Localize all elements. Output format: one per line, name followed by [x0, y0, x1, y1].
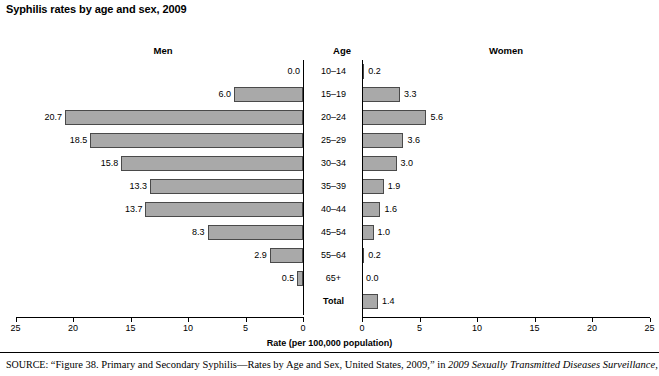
bar-men: [270, 248, 303, 263]
bar-value-men: 0.5: [234, 271, 294, 286]
axis-tick: [362, 318, 363, 322]
age-group-label: 55–64: [306, 248, 361, 263]
axis-tick: [16, 318, 17, 322]
bar-women: [362, 202, 380, 217]
chart-plot-area: 0.010–140.26.015–193.320.720–245.618.525…: [0, 60, 659, 318]
source-publication-title: 2009 Sexually Transmitted Diseases Surve…: [448, 359, 655, 370]
bar-value-men: 8.3: [145, 225, 205, 240]
bar-value-women: 3.3: [404, 87, 464, 102]
axis-tick-label: 5: [231, 323, 261, 333]
bar-men: [150, 179, 303, 194]
age-group-label: 40–44: [306, 202, 361, 217]
axis-tick: [477, 318, 478, 322]
chart-row: 2.955–640.2: [0, 244, 659, 267]
age-group-label: 45–54: [306, 225, 361, 240]
bar-men: [234, 87, 303, 102]
chart-row: Total1.4: [0, 290, 659, 313]
axis-tick-label: 20: [58, 323, 88, 333]
bar-men: [208, 225, 303, 240]
women-panel-header: Women: [483, 45, 529, 56]
bar-men: [90, 133, 303, 148]
men-zero-axis-line: [303, 60, 304, 315]
bar-value-women: 5.6: [430, 110, 490, 125]
bar-value-women: 1.9: [388, 179, 448, 194]
age-group-label: 35–39: [306, 179, 361, 194]
chart-row: 6.015–193.3: [0, 83, 659, 106]
chart-row: 8.345–541.0: [0, 221, 659, 244]
axis-tick-label: 10: [462, 323, 492, 333]
bar-women: [362, 156, 397, 171]
chart-row: 18.525–293.6: [0, 129, 659, 152]
axis-tick-label: 20: [577, 323, 607, 333]
age-group-label: 20–24: [306, 110, 361, 125]
chart-row: 13.740–441.6: [0, 198, 659, 221]
bar-women: [362, 133, 403, 148]
axis-tick: [131, 318, 132, 322]
axis-tick-label: 15: [116, 323, 146, 333]
bar-women: [362, 179, 384, 194]
bar-value-men: 13.7: [82, 202, 142, 217]
bar-men: [121, 156, 303, 171]
axis-tick: [188, 318, 189, 322]
source-label: SOURCE:: [6, 359, 48, 370]
bar-value-men: 15.8: [58, 156, 118, 171]
age-group-label: 25–29: [306, 133, 361, 148]
age-group-label: 15–19: [306, 87, 361, 102]
bar-value-men: 20.7: [2, 110, 62, 125]
axis-tick: [73, 318, 74, 322]
bar-value-men: 2.9: [207, 248, 267, 263]
bar-women: [362, 87, 400, 102]
source-divider: [0, 352, 659, 353]
age-group-label: 65+: [306, 271, 361, 286]
age-column-header: Age: [322, 45, 362, 56]
x-axis-title: Rate (per 100,000 population): [0, 338, 659, 348]
bar-men: [65, 110, 303, 125]
bar-value-women: 3.6: [407, 133, 467, 148]
axis-tick-label: 10: [173, 323, 203, 333]
axis-tick: [303, 318, 304, 322]
axis-tick: [420, 318, 421, 322]
source-text-after: ,: [655, 359, 658, 370]
chart-row: 20.720–245.6: [0, 106, 659, 129]
bar-value-men: 18.5: [27, 133, 87, 148]
chart-row: 0.010–140.2: [0, 60, 659, 83]
axis-tick: [246, 318, 247, 322]
bar-value-women: 0.2: [368, 64, 428, 79]
axis-tick-label: 5: [405, 323, 435, 333]
bar-value-women: 0.2: [368, 248, 428, 263]
age-group-label: 30–34: [306, 156, 361, 171]
bar-value-men: 0.0: [240, 64, 300, 79]
age-group-label: 10–14: [306, 64, 361, 79]
axis-tick: [650, 318, 651, 322]
bar-women: [362, 294, 378, 309]
men-x-axis-line: [16, 317, 304, 318]
source-text-before: “Figure 38. Primary and Secondary Syphil…: [48, 359, 448, 370]
axis-tick-label: 0: [347, 323, 377, 333]
axis-tick-label: 25: [1, 323, 31, 333]
age-group-label: Total: [306, 294, 361, 309]
page-title: Syphilis rates by age and sex, 2009: [6, 3, 187, 15]
axis-tick-label: 0: [288, 323, 318, 333]
axis-tick: [535, 318, 536, 322]
bar-value-women: 0.0: [366, 271, 426, 286]
chart-row: 13.335–391.9: [0, 175, 659, 198]
bar-women: [362, 110, 426, 125]
women-x-axis-line: [362, 317, 650, 318]
bar-value-women: 1.4: [382, 294, 442, 309]
chart-row: 0.565+0.0: [0, 267, 659, 290]
axis-tick-label: 25: [635, 323, 659, 333]
bar-value-women: 3.0: [401, 156, 461, 171]
bar-value-women: 1.6: [384, 202, 444, 217]
women-zero-axis-line: [362, 60, 363, 318]
axis-tick: [592, 318, 593, 322]
bar-women: [362, 225, 374, 240]
bar-value-men: 13.3: [87, 179, 147, 194]
bar-value-women: 1.0: [378, 225, 438, 240]
bar-value-men: 6.0: [171, 87, 231, 102]
men-panel-header: Men: [143, 45, 183, 56]
chart-row: 15.830–343.0: [0, 152, 659, 175]
axis-tick-label: 15: [520, 323, 550, 333]
bar-men: [145, 202, 303, 217]
source-note: SOURCE: “Figure 38. Primary and Secondar…: [6, 358, 656, 371]
